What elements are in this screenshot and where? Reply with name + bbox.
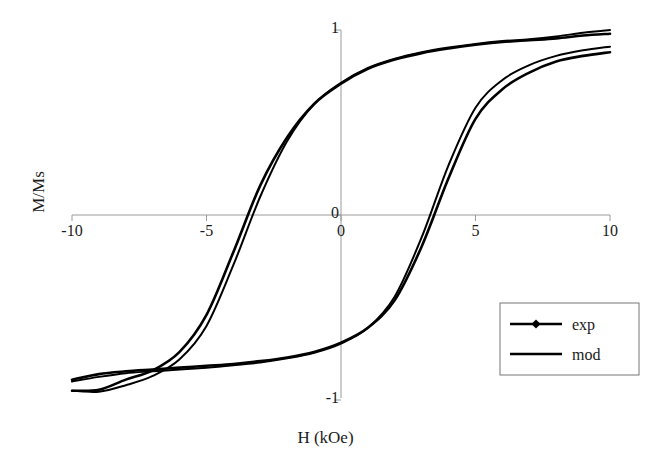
legend-box	[500, 303, 639, 375]
y-tick-label: 1	[305, 19, 345, 37]
x-axis-title: H (kOe)	[0, 428, 651, 448]
legend: expmod	[500, 303, 639, 375]
hysteresis-loop-chart: M/Ms H (kOe) expmod -10-5051010-1	[0, 0, 651, 469]
x-tick-label: -5	[185, 222, 229, 240]
x-tick-label: 5	[454, 222, 498, 240]
x-tick-label: -10	[50, 222, 94, 240]
y-tick-label: -1	[305, 389, 345, 407]
x-tick-label: 10	[588, 222, 632, 240]
x-tick-label: 0	[319, 222, 363, 240]
legend-label: mod	[572, 346, 600, 363]
y-axis-title: M/Ms	[29, 147, 49, 237]
legend-label: exp	[572, 316, 595, 334]
y-tick-label: 0	[305, 204, 345, 222]
